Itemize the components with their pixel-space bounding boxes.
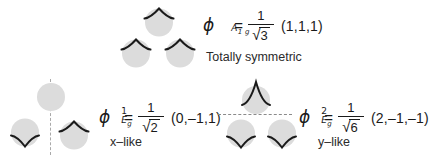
eg2-horizontal-nodal-plane [218, 114, 292, 115]
eg2-radical: √ 6 [342, 118, 359, 134]
eg1-radicand: 2 [149, 119, 159, 134]
eg2-denominator: √ 6 [339, 117, 362, 134]
eg1-phi-symbol: ϕ 1 Eg [99, 109, 121, 126]
a1g-denominator: √ 3 [249, 25, 272, 42]
eg2-equation: ϕ 2 Eg = 1 √ 6 (2,–1,–1) [299, 101, 429, 134]
eg2-coefficient-vector: (2,–1,–1) [364, 111, 429, 125]
eg1-orbital-bottom-right [57, 117, 91, 151]
a1g-coefficient-vector: (1,1,1) [274, 19, 323, 33]
a1g-radicand: 3 [259, 27, 269, 42]
eg2-caption: y–like [318, 135, 350, 149]
eg2-radicand: 6 [349, 119, 359, 134]
eg1-phi-subscript: Eg [121, 116, 132, 128]
a1g-equation: ϕ A1 g = 1 √ 3 (1,1,1) [203, 9, 323, 42]
eg1-orbital-top [34, 80, 68, 114]
eg1-fraction: 1 √ 2 [138, 101, 164, 134]
eg1-equation: ϕ 1 Eg = 1 √ 2 (0,–1,1) [99, 101, 221, 134]
a1g-phi-subscript: A1 g [231, 24, 250, 36]
eg2-numerator: 1 [343, 101, 358, 116]
eg2-orbital-top [239, 79, 273, 113]
a1g-caption: Totally symmetric [206, 50, 302, 64]
a1g-phi-symbol: ϕ A1 g [203, 17, 231, 34]
a1g-orbital-bottom-left [119, 35, 153, 69]
eg2-fraction: 1 √ 6 [338, 101, 364, 134]
symmetry-orbital-figure: ϕ A1 g = 1 √ 3 (1,1,1) Totally symmetric [0, 0, 432, 158]
eg1-coefficient-vector: (0,–1,1) [164, 111, 221, 125]
a1g-orbital-top [142, 4, 176, 38]
eg2-orbital-bottom-left [224, 118, 258, 152]
eg1-caption: x–like [110, 135, 142, 149]
eg2-orbital-bottom-right [265, 118, 299, 152]
eg1-numerator: 1 [143, 101, 158, 116]
eg2-phi-symbol: ϕ 2 Eg [299, 109, 321, 126]
eg1-orbital-bottom-left [8, 117, 42, 151]
a1g-numerator: 1 [253, 9, 268, 24]
eg1-denominator: √ 2 [139, 117, 162, 134]
eg1-radical: √ 2 [142, 118, 159, 134]
a1g-radical: √ 3 [252, 26, 269, 42]
eg2-phi-subscript: Eg [321, 116, 332, 128]
a1g-orbital-bottom-right [163, 35, 197, 69]
a1g-fraction: 1 √ 3 [248, 9, 274, 42]
